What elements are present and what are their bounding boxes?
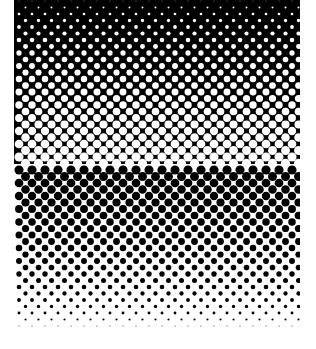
halftone-gradient-pattern	[0, 0, 316, 349]
